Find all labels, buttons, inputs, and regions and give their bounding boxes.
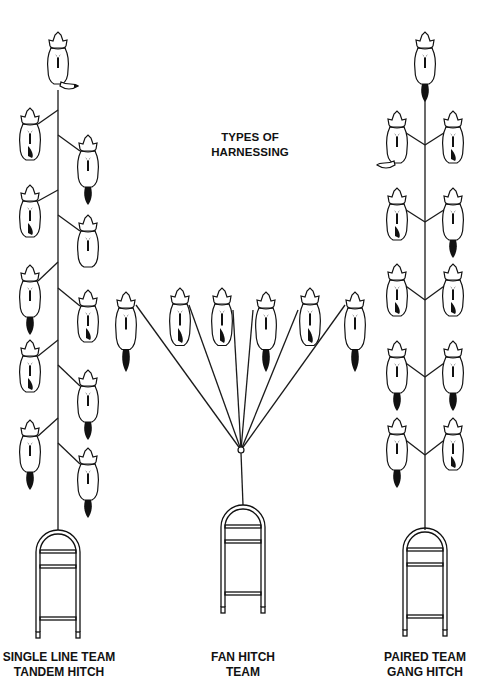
- dog-icon: [78, 370, 99, 440]
- tug-line: [58, 135, 80, 151]
- fan-tug-line: [241, 310, 253, 450]
- dog-icon: [387, 264, 408, 316]
- dog-icon: [256, 292, 277, 372]
- dog-icon: [78, 290, 99, 342]
- tug-line: [58, 288, 80, 306]
- title-line-1: TYPES OF: [180, 130, 320, 145]
- caption-fan-line-2: TEAM: [193, 665, 293, 680]
- tug-line: [38, 262, 58, 281]
- tug-line: [58, 215, 80, 231]
- harnessing-illustration: [0, 0, 485, 691]
- sled-paired-team: [403, 528, 447, 636]
- tug-line: [38, 110, 58, 124]
- dog-icon: [170, 288, 191, 346]
- fan-tug-line: [233, 310, 241, 450]
- caption-fan-line-1: FAN HITCH: [193, 650, 293, 665]
- dog-icon: [415, 32, 436, 102]
- dog-icon: [300, 288, 321, 346]
- dog-icon: [387, 418, 408, 488]
- sled-single-line: [36, 530, 80, 638]
- dog-icon: [387, 188, 408, 240]
- caption-paired-line-2: GANG HITCH: [375, 665, 475, 680]
- dog-icon: [20, 108, 41, 160]
- dog-icon: [443, 418, 464, 470]
- caption-paired-line-1: PAIRED TEAM: [375, 650, 475, 665]
- tug-line: [58, 365, 80, 386]
- caption-fan-hitch-team: FAN HITCH TEAM: [193, 650, 293, 680]
- dog-icon: [443, 188, 464, 258]
- dog-icon: [212, 288, 233, 346]
- dog-icon: [48, 32, 79, 89]
- caption-single-line-2: TANDEM HITCH: [0, 665, 118, 680]
- dog-icon: [443, 341, 464, 411]
- title-line-2: HARNESSING: [180, 145, 320, 160]
- caption-single-line-team: SINGLE LINE TEAM TANDEM HITCH: [0, 650, 118, 680]
- diagram-title: TYPES OF HARNESSING: [180, 130, 320, 160]
- sled-fan-hitch: [221, 505, 265, 613]
- dog-icon: [443, 264, 464, 316]
- tug-line: [38, 340, 58, 356]
- dog-icon: [387, 341, 408, 411]
- dog-icon: [78, 215, 99, 267]
- caption-paired-team: PAIRED TEAM GANG HITCH: [375, 650, 475, 680]
- dog-icon: [443, 111, 464, 163]
- dog-icon: [377, 111, 407, 168]
- dog-icon: [78, 135, 99, 205]
- tug-line: [38, 418, 58, 436]
- fan-main-line: [241, 453, 243, 505]
- tug-line: [58, 443, 80, 464]
- dog-icon: [20, 185, 41, 237]
- dog-icon: [20, 265, 41, 335]
- fan-hub-ring: [238, 447, 244, 453]
- dog-icon: [78, 448, 99, 518]
- harnessing-diagram: [0, 0, 485, 691]
- dog-icon: [345, 292, 366, 372]
- tug-line: [38, 190, 58, 201]
- caption-single-line-1: SINGLE LINE TEAM: [0, 650, 118, 665]
- dog-icon: [20, 420, 41, 490]
- dog-icon: [116, 292, 137, 372]
- dog-icon: [20, 340, 41, 392]
